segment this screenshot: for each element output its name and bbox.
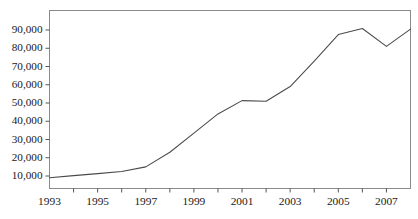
x-tick-label: 2001 xyxy=(231,195,254,207)
x-tick-label: 1995 xyxy=(86,195,109,207)
x-tick-label: 1997 xyxy=(134,195,157,207)
y-tick-label: 50,000 xyxy=(12,96,43,108)
y-axis-tick-labels: 10,00020,00030,00040,00050,00060,00070,0… xyxy=(12,23,43,181)
y-tick-label: 30,000 xyxy=(12,133,43,145)
x-tick-label: 1993 xyxy=(38,195,61,207)
x-tick-label: 2005 xyxy=(327,195,350,207)
chart-figure: g 10,00020,00030,00040,00050,00060,00070… xyxy=(0,0,418,219)
y-tick-label: 60,000 xyxy=(12,78,43,90)
x-tick-label: 1999 xyxy=(183,195,206,207)
y-tick-label: 70,000 xyxy=(12,60,43,72)
x-tick-label: 2007 xyxy=(375,195,398,207)
line-chart: 10,00020,00030,00040,00050,00060,00070,0… xyxy=(0,0,418,219)
chart-background xyxy=(0,0,418,219)
y-tick-label: 80,000 xyxy=(12,41,43,53)
y-tick-label: 90,000 xyxy=(12,23,43,35)
y-tick-label: 10,000 xyxy=(12,169,43,181)
x-tick-label: 2003 xyxy=(279,195,302,207)
y-tick-label: 20,000 xyxy=(12,151,43,163)
y-tick-label: 40,000 xyxy=(12,114,43,126)
